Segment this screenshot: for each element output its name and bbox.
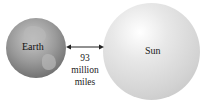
distance-number: 93 xyxy=(66,52,104,64)
distance-label: 93 million miles xyxy=(66,52,104,88)
distance-unit-1: million xyxy=(66,64,104,76)
double-arrow-icon xyxy=(66,43,104,51)
sun-label: Sun xyxy=(145,45,161,56)
earth-label: Earth xyxy=(22,41,44,52)
continent-shape xyxy=(42,54,56,70)
distance-unit-2: miles xyxy=(66,76,104,88)
